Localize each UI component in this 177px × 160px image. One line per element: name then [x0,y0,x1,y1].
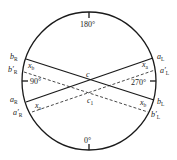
point-label: c1 [87,96,94,106]
point-label: aL [157,52,165,62]
point-label: xa [34,101,42,111]
angle-label: 0° [84,136,91,145]
point-label: c [86,70,90,79]
angle-label: 270° [131,78,146,87]
point-label: aR [10,95,18,105]
point-label: b′L [151,110,161,120]
dashed-line-aR'-aL' [32,70,155,112]
point-label: bR [10,52,18,62]
angle-label: 90° [30,77,41,86]
point-label: xb [27,61,35,71]
point-label: xb [139,98,147,108]
point-label: xa [141,60,149,70]
point-label: bL [157,97,165,107]
point-label: a′R [13,108,23,118]
point-label: b′R [8,65,18,75]
point-label: a′L [160,66,170,76]
angle-labels: 180°90°270°0° [30,20,146,145]
angle-label: 180° [80,20,95,29]
circle-diagram: 180°90°270°0° bRb′RaRa′RaLa′LbLb′Lxbxaxa… [0,0,177,160]
